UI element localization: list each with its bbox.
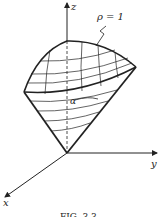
z-axis-label: z	[70, 1, 77, 12]
rho-leader-line	[96, 26, 106, 46]
x-axis-label: x	[3, 197, 9, 208]
cap-grid-line	[98, 45, 101, 86]
cone-contour	[44, 112, 99, 121]
cone-sphere-diagram: ρ = 1 α z y x FIG. 3.3	[0, 0, 161, 217]
cap-grid-line	[115, 52, 118, 78]
figure-caption: FIG. 3.3	[60, 212, 97, 217]
cone	[24, 67, 136, 153]
cap-grid-line	[81, 42, 82, 91]
cap-back-edge	[24, 41, 136, 92]
cap-grid-line	[40, 50, 115, 61]
axes	[5, 3, 157, 197]
x-axis	[5, 153, 67, 197]
alpha-arc	[75, 98, 98, 100]
rho-label: ρ = 1	[96, 11, 124, 22]
cone-contour	[51, 123, 90, 131]
alpha-label: α	[70, 96, 76, 106]
y-axis-label: y	[150, 158, 157, 169]
cap-grid-line	[45, 50, 50, 94]
cap-grid-line	[31, 58, 128, 74]
spherical-cap	[24, 41, 136, 94]
